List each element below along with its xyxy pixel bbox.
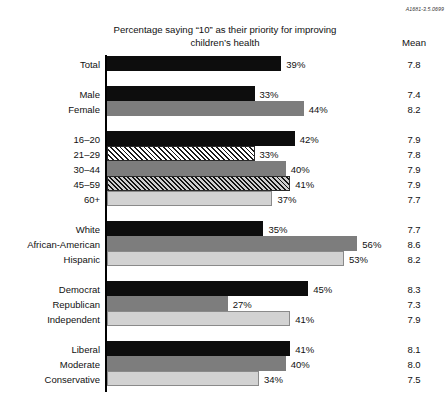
bar <box>107 236 357 251</box>
mean-value: 7.5 <box>388 373 440 384</box>
bar <box>107 296 228 311</box>
bar-row: Male33%7.4 <box>0 86 448 101</box>
bar-value-label: 27% <box>233 298 252 309</box>
bar <box>107 176 290 191</box>
bar <box>107 86 255 101</box>
bar-value-label: 39% <box>286 58 305 69</box>
bar-value-label: 56% <box>362 238 381 249</box>
bar-row: 60+37%7.7 <box>0 191 448 206</box>
bar-row-label: 16–20 <box>0 133 100 144</box>
bar-row: Democrat45%8.3 <box>0 281 448 296</box>
mean-value: 8.3 <box>388 283 440 294</box>
mean-value: 7.8 <box>388 58 440 69</box>
bar-value-label: 33% <box>260 88 279 99</box>
bar-row: Liberal41%8.1 <box>0 341 448 356</box>
bar-row: African-American56%8.6 <box>0 236 448 251</box>
bar-row: Female44%8.2 <box>0 101 448 116</box>
bar <box>107 146 255 161</box>
bar <box>107 56 281 71</box>
bar <box>107 161 286 176</box>
bar <box>107 371 259 386</box>
bar-row: Moderate40%8.0 <box>0 356 448 371</box>
bar-value-label: 40% <box>291 163 310 174</box>
mean-value: 7.9 <box>388 133 440 144</box>
bar-row: Republican27%7.3 <box>0 296 448 311</box>
bar-value-label: 44% <box>309 103 328 114</box>
mean-value: 8.1 <box>388 343 440 354</box>
bar-row-label: Male <box>0 88 100 99</box>
bar-value-label: 41% <box>295 313 314 324</box>
bar-value-label: 53% <box>349 253 368 264</box>
bar <box>107 356 286 371</box>
bar <box>107 281 308 296</box>
bar-value-label: 42% <box>300 133 319 144</box>
bar-row: Total39%7.8 <box>0 56 448 71</box>
bar-row: 30–4440%7.9 <box>0 161 448 176</box>
bar <box>107 191 272 206</box>
bar-row-label: Democrat <box>0 283 100 294</box>
mean-value: 7.7 <box>388 193 440 204</box>
bar-row-label: 30–44 <box>0 163 100 174</box>
mean-value: 7.7 <box>388 223 440 234</box>
mean-value: 7.8 <box>388 148 440 159</box>
mean-value: 8.2 <box>388 253 440 264</box>
bar-row-label: Conservative <box>0 373 100 384</box>
bar-value-label: 37% <box>277 193 296 204</box>
bar-value-label: 34% <box>264 373 283 384</box>
bar-row-label: White <box>0 223 100 234</box>
mean-value: 7.4 <box>388 88 440 99</box>
bar-value-label: 40% <box>291 358 310 369</box>
bar <box>107 221 263 236</box>
bar-row-label: African-American <box>0 238 100 249</box>
mean-value: 7.9 <box>388 313 440 324</box>
mean-value: 7.9 <box>388 163 440 174</box>
mean-value: 8.6 <box>388 238 440 249</box>
bar <box>107 131 295 146</box>
bar-value-label: 35% <box>268 223 287 234</box>
bar-row: White35%7.7 <box>0 221 448 236</box>
bar-row-label: 60+ <box>0 193 100 204</box>
mean-value: 7.3 <box>388 298 440 309</box>
bar-row: 16–2042%7.9 <box>0 131 448 146</box>
bar-row-label: Independent <box>0 313 100 324</box>
bar-row: 45–5941%7.9 <box>0 176 448 191</box>
bar-chart-plot-area: Total39%7.8Male33%7.4Female44%8.216–2042… <box>0 0 448 418</box>
bar-value-label: 45% <box>313 283 332 294</box>
bar <box>107 251 344 266</box>
bar-row-label: Total <box>0 58 100 69</box>
bar <box>107 311 290 326</box>
mean-value: 8.2 <box>388 103 440 114</box>
mean-value: 8.0 <box>388 358 440 369</box>
bar-row-label: Hispanic <box>0 253 100 264</box>
bar-row-label: Liberal <box>0 343 100 354</box>
bar-row: 21–2933%7.8 <box>0 146 448 161</box>
mean-value: 7.9 <box>388 178 440 189</box>
bar-row-label: 21–29 <box>0 148 100 159</box>
bar-value-label: 41% <box>295 343 314 354</box>
bar-row: Independent41%7.9 <box>0 311 448 326</box>
bar-row-label: Female <box>0 103 100 114</box>
bar <box>107 341 290 356</box>
bar-value-label: 33% <box>260 148 279 159</box>
bar-row-label: Moderate <box>0 358 100 369</box>
bar-value-label: 41% <box>295 178 314 189</box>
bar-row-label: 45–59 <box>0 178 100 189</box>
bar-row: Conservative34%7.5 <box>0 371 448 386</box>
bar-row: Hispanic53%8.2 <box>0 251 448 266</box>
bar-row-label: Republican <box>0 298 100 309</box>
bar <box>107 101 304 116</box>
